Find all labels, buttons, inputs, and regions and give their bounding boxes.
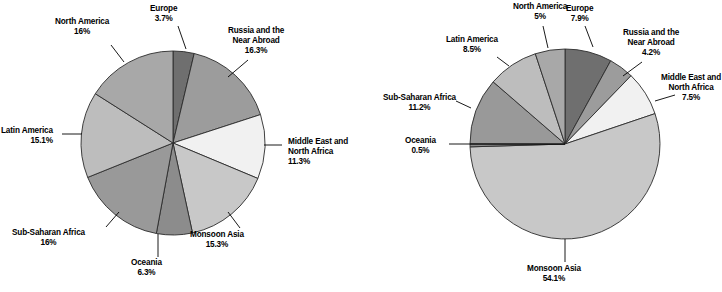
- leader-line: [543, 26, 548, 48]
- slice-label-russia-and-the: Russia and theNear Abroad4.2%: [623, 28, 679, 59]
- leader-line: [178, 26, 186, 49]
- slice-label-percent: 16.3%: [228, 46, 284, 56]
- leader-line: [228, 212, 240, 228]
- leader-line: [585, 26, 593, 47]
- slice-label-name: North Africa: [661, 83, 721, 93]
- slice-label-europe: Europe3.7%: [150, 4, 177, 24]
- slice-label-percent: 15.1%: [1, 136, 53, 146]
- slice-label-name: Oceania: [405, 136, 436, 146]
- leader-line: [106, 212, 119, 227]
- slice-label-percent: 54.1%: [527, 274, 581, 284]
- slice-label-name: Near Abroad: [228, 36, 284, 46]
- slice-label-oceania: Oceania6.3%: [131, 258, 162, 278]
- slice-label-percent: 7.9%: [566, 14, 593, 24]
- slice-label-name: Latin America: [446, 35, 498, 45]
- slice-label-percent: 3.7%: [150, 14, 177, 24]
- slice-label-name: North Africa: [288, 147, 348, 157]
- slice-label-middle-east-and: Middle East andNorth Africa7.5%: [661, 73, 721, 104]
- slice-label-oceania: Oceania0.5%: [405, 136, 436, 156]
- slice-label-russia-and-the: Russia and theNear Abroad16.3%: [228, 26, 284, 57]
- leader-line: [623, 62, 642, 76]
- pie-chart-left: Europe3.7%Russia and theNear Abroad16.3%…: [0, 0, 361, 292]
- slice-label-name: Monsoon Asia: [527, 264, 581, 274]
- slice-label-europe: Europe7.9%: [566, 4, 593, 24]
- slice-label-percent: 16%: [55, 27, 109, 37]
- pie-chart-pair: Europe3.7%Russia and theNear Abroad16.3%…: [0, 0, 722, 292]
- slice-label-name: Oceania: [131, 258, 162, 268]
- leader-line: [497, 57, 509, 66]
- slice-label-name: Russia and the: [228, 26, 284, 36]
- slice-label-latin-america: Latin America15.1%: [1, 126, 53, 146]
- slice-label-name: Monsoon Asia: [190, 230, 244, 240]
- slice-label-percent: 8.5%: [446, 45, 498, 55]
- slice-label-percent: 11.2%: [383, 103, 456, 113]
- slice-label-name: Near Abroad: [623, 38, 679, 48]
- slice-label-name: Sub-Saharan Africa: [12, 228, 85, 238]
- pie-chart-right: Europe7.9%Russia and theNear Abroad4.2%M…: [361, 0, 722, 292]
- slice-label-name: North America: [55, 17, 109, 27]
- slice-label-percent: 15.3%: [190, 240, 244, 250]
- slice-label-name: Middle East and: [288, 137, 348, 147]
- slice-label-name: Russia and the: [623, 28, 679, 38]
- slice-label-name: Europe: [566, 4, 593, 14]
- slice-label-sub-saharan-africa: Sub-Saharan Africa16%: [12, 228, 85, 248]
- slice-label-latin-america: Latin America8.5%: [446, 35, 498, 55]
- slice-label-name: Middle East and: [661, 73, 721, 83]
- slice-label-percent: 6.3%: [131, 268, 162, 278]
- slice-label-sub-saharan-africa: Sub-Saharan Africa11.2%: [383, 93, 456, 113]
- leader-line: [228, 60, 248, 77]
- slice-label-north-america: North America5%: [513, 2, 567, 22]
- slice-label-name: North America: [513, 2, 567, 12]
- slice-label-name: Europe: [150, 4, 177, 14]
- slice-label-percent: 4.2%: [623, 48, 679, 58]
- leader-line: [111, 45, 124, 62]
- slice-label-percent: 16%: [12, 238, 85, 248]
- slice-label-percent: 7.5%: [661, 93, 721, 103]
- slice-label-monsoon-asia: Monsoon Asia54.1%: [527, 264, 581, 284]
- slice-label-name: Latin America: [1, 126, 53, 136]
- slice-label-monsoon-asia: Monsoon Asia15.3%: [190, 230, 244, 250]
- slice-label-north-america: North America16%: [55, 17, 109, 37]
- slice-label-percent: 0.5%: [405, 146, 436, 156]
- slice-label-name: Sub-Saharan Africa: [383, 93, 456, 103]
- leader-line: [456, 101, 471, 108]
- slice-label-percent: 5%: [513, 12, 567, 22]
- slice-label-percent: 11.3%: [288, 157, 348, 167]
- slice-label-middle-east-and: Middle East andNorth Africa11.3%: [288, 137, 348, 168]
